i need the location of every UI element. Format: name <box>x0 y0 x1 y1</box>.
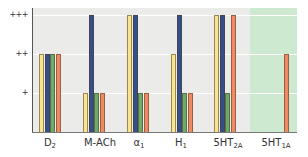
x-axis-line <box>32 132 297 133</box>
x-category-label: H1 <box>159 137 203 149</box>
bar-orange <box>144 93 149 132</box>
gridline <box>33 15 297 16</box>
x-category-label: 5HT2A <box>206 137 250 149</box>
bar-green <box>225 93 230 132</box>
bar-green <box>94 93 99 132</box>
bar-blue <box>45 54 50 132</box>
receptor-binding-chart: ++++++ D2M-AChα1H15HT2A5HT1A <box>0 0 308 157</box>
bar-green <box>138 93 143 132</box>
bar-yellow <box>127 15 132 132</box>
bar-orange <box>56 54 61 132</box>
bar-blue <box>89 15 94 132</box>
bar-orange <box>100 93 105 132</box>
bar-blue <box>220 15 225 132</box>
bar-orange <box>284 54 289 132</box>
x-category-label: α1 <box>117 137 161 149</box>
x-category-label: 5HT1A <box>254 137 298 149</box>
bar-orange <box>231 15 236 132</box>
bar-yellow <box>214 15 219 132</box>
gridline <box>33 54 297 55</box>
y-tick-label: ++ <box>0 50 28 58</box>
bar-yellow <box>39 54 44 132</box>
bar-blue <box>133 15 138 132</box>
bar-green <box>50 54 55 132</box>
gridline <box>33 93 297 94</box>
y-tick-label: + <box>0 89 28 97</box>
x-category-label: D2 <box>28 137 72 149</box>
bar-orange <box>188 93 193 132</box>
y-axis-line <box>32 8 33 133</box>
highlight-region <box>250 8 297 132</box>
bar-yellow <box>171 54 176 132</box>
bar-yellow <box>83 93 88 132</box>
x-category-label: M-ACh <box>78 137 122 149</box>
bar-green <box>182 93 187 132</box>
bar-blue <box>177 15 182 132</box>
y-tick-label: +++ <box>0 11 28 19</box>
